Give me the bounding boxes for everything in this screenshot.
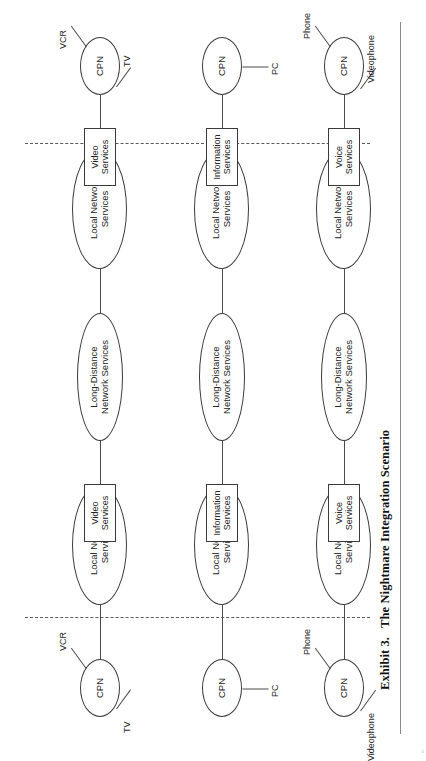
edge-lns-to-ldns-row1-left <box>100 441 101 485</box>
cpn-node-information-left[interactable]: CPN <box>202 659 242 717</box>
cpn-label: CPN <box>217 678 228 698</box>
cpn-label: CPN <box>339 56 350 76</box>
edge-ldns-to-lns-row1-right <box>100 269 101 313</box>
cpn-label: CPN <box>95 56 106 76</box>
leader-phone-right <box>315 26 331 48</box>
service-box-voice-left[interactable]: Voice Services <box>328 484 360 542</box>
terminal-label-pc-left: PC <box>270 684 280 697</box>
lns-label: Local Network Services <box>211 179 232 239</box>
service-box-label: Information Services <box>212 490 232 535</box>
service-box-label: Voice Services <box>334 496 354 531</box>
demarcation-line-right <box>25 142 370 144</box>
page-corner-mark: 1 <box>422 749 425 754</box>
service-box-video-left[interactable]: Video Services <box>84 484 116 542</box>
long-distance-network-services-video[interactable]: Long-Distance Network Services <box>77 313 123 441</box>
leader-pc-right <box>243 67 269 68</box>
lns-label: Local Network Services <box>333 179 354 239</box>
service-box-label: Video Services <box>90 140 110 175</box>
network-diagram: CPN TV VCR Local Network Services Video … <box>0 0 400 755</box>
caption-number: Exhibit 3. <box>378 637 392 690</box>
demarcation-line-left <box>25 616 370 618</box>
ldns-label: Long-Distance Network Services <box>89 340 110 414</box>
leader-pc-left <box>243 689 269 690</box>
terminal-label-tv-right: TV <box>122 55 132 67</box>
edge-cpn-to-lns-row1-left <box>100 605 101 659</box>
leader-phone-left <box>315 648 331 670</box>
edge-ldns-to-lns-row2-right <box>222 269 223 313</box>
leader-vcr-right <box>71 26 87 48</box>
cpn-label: CPN <box>217 56 228 76</box>
edge-cpn-to-lns-row2-left <box>222 605 223 659</box>
leader-vcr-left <box>71 648 87 670</box>
service-box-voice-right[interactable]: Voice Services <box>328 128 360 186</box>
service-box-label: Video Services <box>90 496 110 531</box>
terminal-label-videophone-right: Videophone <box>366 35 376 83</box>
terminal-label-videophone-left: Videophone <box>366 713 376 761</box>
edge-lns-to-ldns-row2-left <box>222 441 223 485</box>
figure-caption: Exhibit 3.The Nightmare Integration Scen… <box>378 430 393 690</box>
edge-lns-to-ldns-row3-left <box>344 441 345 485</box>
rotated-figure-wrapper: CPN TV VCR Local Network Services Video … <box>0 0 400 755</box>
cpn-node-information-right[interactable]: CPN <box>202 37 242 95</box>
service-box-video-right[interactable]: Video Services <box>84 128 116 186</box>
terminal-label-vcr-left: VCR <box>58 632 68 651</box>
long-distance-network-services-voice[interactable]: Long-Distance Network Services <box>321 313 367 441</box>
page-rule-divider <box>400 22 401 734</box>
ldns-label: Long-Distance Network Services <box>211 340 232 414</box>
service-box-information-left[interactable]: Information Services <box>206 484 238 542</box>
cpn-label: CPN <box>339 678 350 698</box>
edge-cpn-to-lns-row3-left <box>344 605 345 659</box>
service-box-label: Information Services <box>212 134 232 179</box>
terminal-label-phone-left: Phone <box>302 629 312 655</box>
lns-label: Local Network Services <box>89 179 110 239</box>
service-box-label: Voice Services <box>334 140 354 175</box>
long-distance-network-services-information[interactable]: Long-Distance Network Services <box>199 313 245 441</box>
terminal-label-vcr-right: VCR <box>58 30 68 49</box>
terminal-label-tv-left: TV <box>122 721 132 733</box>
ldns-label: Long-Distance Network Services <box>333 340 354 414</box>
service-box-information-right[interactable]: Information Services <box>206 128 238 186</box>
cpn-label: CPN <box>95 678 106 698</box>
terminal-label-phone-right: Phone <box>302 13 312 39</box>
edge-ldns-to-lns-row3-right <box>344 269 345 313</box>
terminal-label-pc-right: PC <box>270 62 280 75</box>
caption-title: The Nightmare Integration Scenario <box>378 430 392 628</box>
